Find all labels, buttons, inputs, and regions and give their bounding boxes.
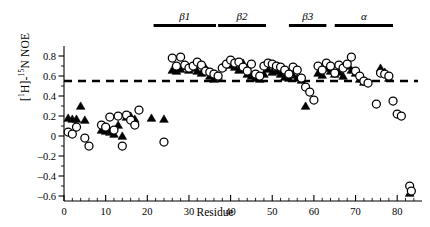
data-point-circle (385, 72, 393, 80)
y-tick-label: 0 (51, 131, 56, 142)
x-axis-label: Residue (0, 206, 430, 218)
secondary-structure-label-b3: β3 (301, 10, 313, 22)
secondary-structure-label-b2: β2 (236, 10, 248, 22)
y-tick-label: 0.2 (43, 111, 56, 122)
data-point-circle (331, 69, 339, 77)
data-point-circle (397, 112, 405, 120)
data-point-circle (106, 113, 114, 121)
data-point-circle (347, 53, 355, 61)
data-point-circle (364, 79, 372, 87)
data-point-circle (372, 100, 380, 108)
chart-canvas: –0.6–0.4–0.200.20.40.60.8010203040506070… (0, 0, 430, 227)
data-point-triangle (76, 102, 85, 109)
data-point-circle (131, 121, 139, 129)
y-tick-label: 0.8 (43, 51, 56, 62)
noe-chart-figure: [1H]-15N NOE –0.6–0.4–0.200.20.40.60.801… (0, 0, 430, 227)
data-point-circle (85, 142, 93, 150)
data-point-circle (214, 72, 222, 80)
data-point-circle (297, 74, 305, 82)
data-point-circle (172, 62, 180, 70)
data-point-triangle (81, 116, 90, 123)
y-tick-label: –0.4 (37, 171, 57, 182)
y-tick-label: 0.4 (43, 91, 57, 102)
data-point-circle (110, 126, 118, 134)
data-point-triangle (160, 115, 169, 122)
y-tick-label: –0.2 (37, 151, 56, 162)
secondary-structure-label-b1: β1 (178, 10, 190, 22)
data-point-circle (389, 97, 397, 105)
data-point-circle (135, 106, 143, 114)
data-point-circle (247, 60, 255, 68)
data-point-triangle (147, 114, 156, 121)
data-point-circle (306, 88, 314, 96)
y-tick-label: 0.6 (43, 71, 56, 82)
data-point-circle (407, 187, 415, 195)
data-point-circle (168, 54, 176, 62)
secondary-structure-label-alpha: α (361, 10, 367, 22)
data-point-triangle (118, 132, 127, 139)
y-tick-label: –0.6 (37, 191, 56, 202)
data-point-circle (177, 53, 185, 61)
data-point-circle (72, 123, 80, 131)
data-point-circle (102, 123, 110, 131)
data-point-circle (81, 134, 89, 142)
data-point-circle (293, 66, 301, 74)
data-point-circle (256, 72, 264, 80)
data-point-circle (310, 96, 318, 104)
data-point-circle (114, 112, 122, 120)
data-point-triangle (301, 102, 310, 109)
data-point-circle (118, 142, 126, 150)
data-point-circle (160, 138, 168, 146)
